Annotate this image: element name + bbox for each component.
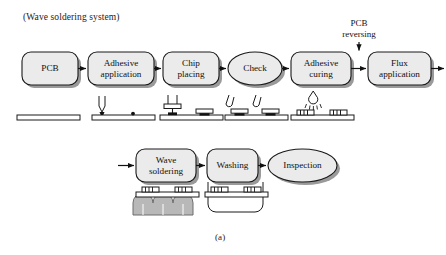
- illustration-solder-wave: [133, 187, 199, 215]
- illustration-curing-lamp: [291, 91, 354, 120]
- illustration-pcb-bare-board: [17, 115, 80, 120]
- illustration-wash-tank: [205, 182, 268, 212]
- node-check: [228, 52, 282, 85]
- figure-canvas: (Wave soldering system) PCB Adhesive app…: [0, 0, 446, 255]
- row2-nodes: [136, 149, 337, 182]
- node-washing: [207, 149, 258, 182]
- node-pcb: [22, 52, 78, 85]
- node-inspection: [268, 149, 337, 182]
- node-adhesive-curing: [291, 52, 351, 85]
- figure-caption: (a): [215, 232, 225, 242]
- node-chip-placing: [163, 52, 219, 85]
- illustration-adhesive-dispenser: [92, 96, 155, 120]
- node-adhesive-application: [88, 52, 154, 85]
- node-flux-application: [368, 52, 431, 85]
- chips-under-board: [297, 110, 347, 115]
- figure-title: (Wave soldering system): [23, 12, 120, 22]
- node-wave-soldering: [136, 149, 196, 182]
- illustration-check-probes: [225, 95, 288, 120]
- illustration-chip-pick-and-place: [160, 95, 223, 120]
- annotation-pcb-reversing: PCB reversing: [329, 18, 389, 39]
